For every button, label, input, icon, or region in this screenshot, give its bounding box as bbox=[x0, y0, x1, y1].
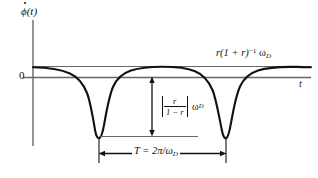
asymptote-omega: ω bbox=[259, 47, 266, 58]
zero-tick-label: 0 bbox=[19, 70, 25, 81]
figure-canvas: ϕ(t) 0 t r(1 + r)−1 ωD r1 − rωD T = 2π/ω… bbox=[0, 0, 318, 178]
abs-bar-right bbox=[187, 96, 188, 117]
abs-bar-left bbox=[162, 96, 163, 117]
amplitude-label: r1 − rωD bbox=[160, 96, 204, 117]
asymptote-exponent: −1 bbox=[249, 47, 257, 55]
y-axis-label: ϕ(t) bbox=[21, 6, 37, 17]
asymptote-omega-subscript: D bbox=[266, 52, 271, 60]
y-axis-label-symbol: ϕ bbox=[21, 6, 27, 17]
amplitude-arrow bbox=[149, 77, 154, 137]
amplitude-numerator: r bbox=[171, 97, 178, 107]
period-expression: T = 2π/ω bbox=[134, 145, 173, 156]
amplitude-omega: ω bbox=[192, 102, 199, 112]
asymptote-leading: r(1 + r) bbox=[216, 47, 249, 58]
x-axis-label: t bbox=[299, 79, 302, 89]
asymptote-label: r(1 + r)−1 ωD bbox=[216, 48, 271, 60]
overdot-icon bbox=[24, 2, 26, 4]
amplitude-omega-subscript: D bbox=[199, 103, 204, 110]
y-axis-label-arg: (t) bbox=[27, 5, 37, 17]
amplitude-denominator: 1 − r bbox=[164, 106, 186, 117]
period-omega-subscript: D bbox=[173, 150, 178, 158]
amplitude-fraction: r1 − r bbox=[164, 97, 186, 117]
y-axis-label-base: ϕ bbox=[21, 5, 27, 17]
period-label: T = 2π/ωD bbox=[132, 146, 180, 158]
